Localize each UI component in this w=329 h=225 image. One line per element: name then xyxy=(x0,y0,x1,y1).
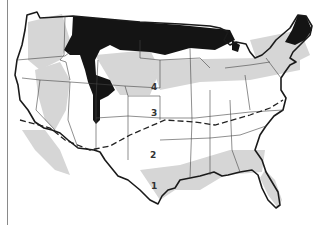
zone-label-3: 3 xyxy=(151,108,157,118)
zone-label-2: 2 xyxy=(150,150,156,160)
zone-label-4: 4 xyxy=(151,82,157,92)
zone-label-1: 1 xyxy=(151,181,157,191)
us-zone-map: 1 2 3 4 xyxy=(0,0,329,225)
